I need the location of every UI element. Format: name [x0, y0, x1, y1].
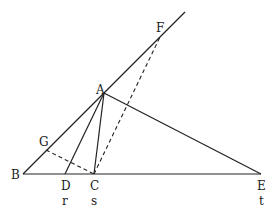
- segment-AC: [94, 93, 104, 174]
- label-A: A: [95, 83, 105, 97]
- sublabel-t: t: [259, 194, 264, 208]
- label-B: B: [11, 168, 20, 182]
- sublabel-r: r: [62, 194, 68, 208]
- dashed-segment-GC: [46, 150, 94, 174]
- label-F: F: [156, 21, 164, 35]
- segment-AE: [104, 93, 261, 174]
- label-D: D: [61, 179, 71, 193]
- geometry-diagram: A B C D E F G r s t: [0, 0, 273, 210]
- label-G: G: [39, 135, 49, 149]
- segment-AD: [65, 93, 104, 174]
- label-E: E: [257, 179, 266, 193]
- sublabel-s: s: [91, 194, 97, 208]
- label-C: C: [90, 179, 99, 193]
